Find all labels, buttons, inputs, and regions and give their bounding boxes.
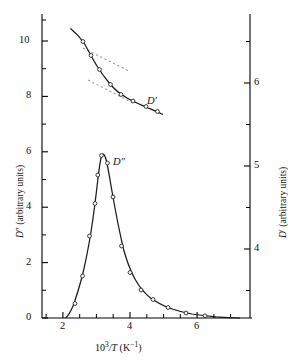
- y-left-axis-unit: (arbitrary units): [15, 165, 25, 225]
- right-axis-major-ticks: [244, 83, 250, 249]
- x-tick-label-2: 2: [60, 321, 65, 332]
- y-right-axis-prime: ′: [278, 229, 288, 231]
- y-left-tick-label-4: 4: [26, 201, 31, 212]
- x-axis-title: 103/T (K−1): [95, 341, 141, 353]
- d-prime-series-label: D′: [147, 96, 157, 107]
- upper-asymptote-dashed-line: [83, 48, 129, 71]
- y-left-axis-title: D″ (arbitrary units): [16, 165, 26, 238]
- plot-svg: [0, 0, 288, 364]
- y-left-tick-label-10: 10: [19, 35, 30, 46]
- y-right-axis-unit: (arbitrary units): [278, 167, 288, 227]
- y-left-tick-label-0: 0: [26, 312, 31, 323]
- left-axis-minor-ticks: [42, 20, 46, 290]
- x-axis-major-ticks: [63, 312, 197, 318]
- y-left-tick-label-6: 6: [26, 146, 31, 157]
- x-axis-title-variable: /T: [109, 342, 117, 353]
- y-left-axis-sep: [15, 225, 25, 227]
- y-left-tick-label-8: 8: [26, 90, 31, 101]
- x-axis-title-unit-exponent: −1: [130, 340, 138, 349]
- figure-panel: 0 2 4 6 8 10 4 5 6 2 4 6 103/T (K−1) D″ …: [0, 0, 288, 364]
- y-left-axis-prime: ″: [15, 227, 25, 231]
- y-right-tick-label-4: 4: [254, 243, 259, 254]
- y-left-axis-symbol: D: [15, 231, 25, 238]
- x-tick-label-4: 4: [127, 321, 132, 332]
- x-axis-title-unit-close: ): [138, 342, 141, 353]
- d-double-prime-series-label: D″: [113, 157, 125, 168]
- y-right-axis-title: D′ (arbitrary units): [279, 167, 288, 238]
- y-right-axis-sep: [278, 227, 288, 229]
- x-axis-title-base: 10: [95, 342, 105, 353]
- y-right-tick-label-5: 5: [254, 160, 259, 171]
- x-axis-title-unit-open: (K: [120, 342, 131, 353]
- y-left-tick-label-2: 2: [26, 257, 31, 268]
- y-right-tick-label-6: 6: [254, 77, 259, 88]
- x-tick-label-6: 6: [194, 321, 199, 332]
- d-double-prime-data-points: [73, 154, 207, 318]
- y-right-axis-symbol: D: [278, 231, 288, 238]
